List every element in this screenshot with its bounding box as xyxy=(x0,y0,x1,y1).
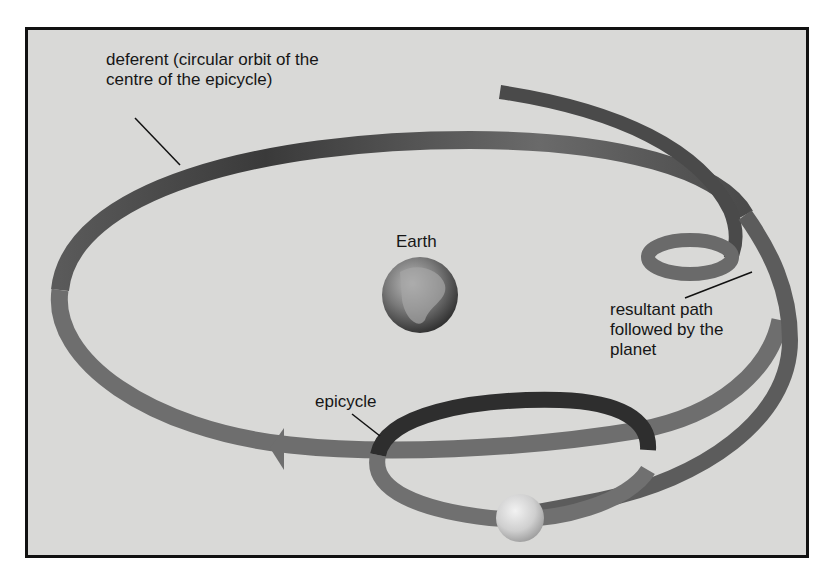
epicycle-leader xyxy=(352,414,380,436)
small-loop xyxy=(648,240,732,274)
deferent-leader xyxy=(135,118,180,165)
epicycle-label: epicycle xyxy=(315,392,376,412)
earth-label: Earth xyxy=(396,232,437,252)
planet-sphere-icon xyxy=(496,494,544,542)
resultant-path-label: resultant path followed by the planet xyxy=(610,300,723,360)
deferent-label: deferent (circular orbit of the centre o… xyxy=(106,50,319,90)
